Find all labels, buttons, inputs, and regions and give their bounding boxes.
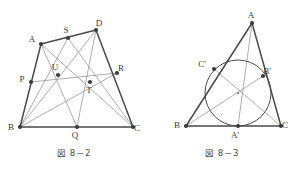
segment-DQ	[77, 30, 96, 127]
figure-8-3-caption: 図 8－3	[148, 146, 296, 158]
segment-BD	[20, 30, 96, 127]
point-label-P: P	[19, 74, 24, 84]
point-label-T: T	[86, 85, 92, 95]
point-label-U: U	[52, 62, 59, 72]
point-label-B: B	[174, 120, 180, 130]
point-label-S: S	[63, 25, 68, 35]
point-marker-B	[184, 124, 188, 128]
point-label-A: A	[29, 34, 36, 44]
figure-sheet: ABCDPQRSTU 図 8－2 ABCA'B'C' 図 8－3	[0, 0, 296, 169]
point-label-Aprime: A'	[231, 130, 239, 140]
figure-8-2-drawing: ABCDPQRSTU	[0, 0, 148, 148]
point-marker-B	[18, 125, 22, 129]
point-label-Cprime: C'	[198, 59, 206, 69]
point-label-A: A	[248, 10, 255, 20]
side-BA	[20, 44, 41, 127]
point-marker-Cprime	[212, 67, 216, 71]
point-marker-U	[56, 73, 60, 77]
point-label-D: D	[96, 18, 103, 28]
point-label-C: C	[134, 123, 140, 133]
segment-AQ	[41, 44, 77, 127]
point-label-C: C	[282, 120, 288, 130]
figure-panel-8-3: ABCA'B'C' 図 8－3	[148, 0, 296, 169]
figure-panel-8-2: ABCDPQRSTU 図 8－2	[0, 0, 148, 169]
segment-PR	[31, 73, 117, 82]
figure-8-3-drawing: ABCA'B'C'	[148, 0, 296, 148]
point-label-Bprime: B'	[263, 66, 271, 76]
point-marker-D	[94, 28, 98, 32]
point-marker-S	[66, 36, 70, 40]
point-label-B: B	[8, 122, 14, 132]
point-marker-A	[250, 21, 254, 25]
incircle-center-point	[237, 92, 239, 94]
point-marker-T	[88, 80, 92, 84]
segment-AAp	[238, 23, 252, 126]
point-label-Q: Q	[72, 130, 79, 140]
side-AB	[186, 23, 252, 126]
point-marker-Aprime	[236, 124, 240, 128]
point-marker-Q	[75, 125, 79, 129]
point-marker-A	[39, 42, 43, 46]
figure-8-2-caption: 図 8－2	[0, 146, 148, 158]
point-label-R: R	[118, 63, 124, 73]
point-marker-P	[29, 80, 33, 84]
side-DC	[96, 30, 133, 127]
